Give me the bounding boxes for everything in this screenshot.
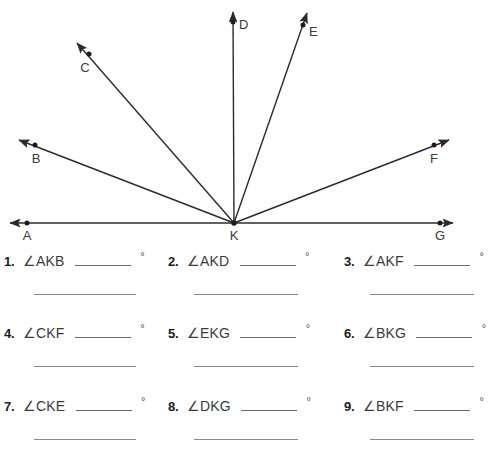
question-prompt: 4. ∠CKF °	[4, 324, 145, 344]
point-label-b: B	[32, 151, 41, 166]
question-angle-label: ∠CKF	[23, 325, 64, 341]
question-prompt: 8. ∠DKG °	[168, 397, 311, 417]
point-label-d: D	[239, 17, 248, 32]
point-dot-d	[231, 20, 236, 25]
question-item-7: 7. ∠CKE °	[4, 393, 164, 462]
ray-KF	[234, 140, 449, 223]
question-prompt: 2. ∠AKD °	[168, 252, 309, 272]
question-item-6: 6. ∠BKG °	[344, 320, 491, 391]
question-number: 2.	[168, 254, 178, 269]
answer-blank[interactable]	[240, 253, 296, 266]
point-dot-k	[231, 220, 237, 226]
work-blank[interactable]	[370, 439, 474, 440]
degree-symbol: °	[140, 322, 144, 334]
question-angle-label: ∠BKF	[363, 398, 404, 414]
work-blank[interactable]	[34, 366, 136, 367]
question-angle-label: ∠AKF	[363, 253, 404, 269]
question-number: 8.	[168, 399, 178, 414]
point-dot-f	[432, 143, 437, 148]
answer-blank[interactable]	[75, 253, 131, 266]
question-item-1: 1. ∠AKB °	[4, 248, 164, 319]
angle-diagram-svg: A B C D E F G K	[0, 0, 464, 248]
point-label-k: K	[230, 228, 239, 243]
question-item-4: 4. ∠CKF °	[4, 320, 164, 391]
question-number: 7.	[4, 399, 14, 414]
question-number: 6.	[344, 326, 354, 341]
question-prompt: 1. ∠AKB °	[4, 252, 145, 272]
ray-KC	[77, 43, 234, 223]
question-angle-label: ∠DKG	[187, 398, 231, 414]
work-blank[interactable]	[370, 366, 474, 367]
point-label-f: F	[430, 151, 438, 166]
work-blank[interactable]	[194, 366, 298, 367]
ray-KB	[19, 140, 234, 223]
answer-blank[interactable]	[241, 398, 297, 411]
point-label-g: G	[435, 228, 445, 243]
degree-symbol: °	[140, 250, 144, 262]
work-blank[interactable]	[370, 294, 474, 295]
degree-symbol: °	[479, 250, 483, 262]
question-item-9: 9. ∠BKF °	[344, 393, 491, 462]
point-dot-b	[33, 143, 38, 148]
degree-symbol: °	[141, 395, 145, 407]
work-blank[interactable]	[34, 439, 136, 440]
degree-symbol: °	[479, 395, 483, 407]
point-label-e: E	[309, 24, 318, 39]
question-number: 5.	[168, 326, 178, 341]
degree-symbol: °	[307, 395, 311, 407]
question-angle-label: ∠BKG	[363, 325, 406, 341]
point-dot-g	[438, 221, 443, 226]
question-item-2: 2. ∠AKD °	[168, 248, 328, 319]
question-angle-label: ∠AKB	[23, 253, 64, 269]
question-angle-label: ∠EKG	[187, 325, 230, 341]
questions-grid: 1. ∠AKB ° 2. ∠AKD ° 3. ∠AKF °	[0, 248, 464, 462]
question-item-5: 5. ∠EKG °	[168, 320, 328, 391]
question-number: 1.	[4, 254, 14, 269]
answer-blank[interactable]	[76, 398, 132, 411]
question-angle-label: ∠CKE	[23, 398, 65, 414]
question-prompt: 7. ∠CKE °	[4, 397, 145, 417]
answer-blank[interactable]	[240, 325, 296, 338]
question-item-3: 3. ∠AKF °	[344, 248, 491, 319]
question-number: 3.	[344, 254, 354, 269]
ray-KE	[234, 13, 307, 223]
answer-blank[interactable]	[414, 398, 470, 411]
answer-blank[interactable]	[416, 325, 472, 338]
question-number: 4.	[4, 326, 14, 341]
answer-blank[interactable]	[414, 253, 470, 266]
question-prompt: 6. ∠BKG °	[344, 324, 486, 344]
question-row-2: 4. ∠CKF ° 5. ∠EKG ° 6. ∠BKG °	[0, 320, 464, 391]
question-number: 9.	[344, 399, 354, 414]
question-prompt: 5. ∠EKG °	[168, 324, 310, 344]
point-dot-a	[25, 221, 30, 226]
question-prompt: 9. ∠BKF °	[344, 397, 484, 417]
work-blank[interactable]	[194, 294, 298, 295]
degree-symbol: °	[306, 322, 310, 334]
question-item-8: 8. ∠DKG °	[168, 393, 328, 462]
ray-KD	[233, 12, 234, 223]
question-row-3: 7. ∠CKE ° 8. ∠DKG ° 9. ∠BKF °	[0, 393, 464, 462]
question-row-1: 1. ∠AKB ° 2. ∠AKD ° 3. ∠AKF °	[0, 248, 464, 319]
angle-diagram: A B C D E F G K	[0, 0, 464, 248]
work-blank[interactable]	[34, 294, 136, 295]
point-label-c: C	[80, 60, 89, 75]
question-prompt: 3. ∠AKF °	[344, 252, 484, 272]
degree-symbol: °	[305, 250, 309, 262]
question-angle-label: ∠AKD	[187, 253, 229, 269]
point-dot-e	[301, 23, 306, 28]
degree-symbol: °	[482, 322, 486, 334]
work-blank[interactable]	[194, 439, 298, 440]
point-label-a: A	[23, 228, 32, 243]
point-dot-c	[87, 52, 92, 57]
answer-blank[interactable]	[75, 325, 131, 338]
